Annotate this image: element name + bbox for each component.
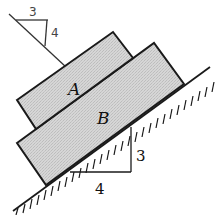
sketch-label-vertical: 4: [51, 26, 59, 40]
block-a-label: A: [66, 79, 80, 99]
incline-diagram: 3 4 A B: [0, 0, 223, 215]
sketch-triangle: 3 4: [9, 5, 66, 67]
sketch-label-horizontal: 3: [29, 5, 37, 19]
slope-rise-label: 3: [136, 147, 146, 165]
sketch-vertical-leg: [45, 20, 47, 46]
slope-run-label: 4: [95, 180, 105, 198]
sketch-hypotenuse: [9, 14, 66, 67]
block-b-label: B: [96, 108, 110, 128]
